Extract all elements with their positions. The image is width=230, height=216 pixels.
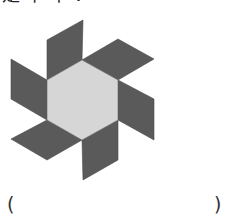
left-parenthesis: ( [7, 193, 14, 215]
right-parenthesis: ) [214, 193, 221, 215]
parallelogram-left [11, 59, 47, 120]
answer-blank: ( ) [0, 193, 230, 215]
hexagon-pinwheel-figure [0, 0, 230, 190]
parallelogram-right [118, 80, 154, 140]
